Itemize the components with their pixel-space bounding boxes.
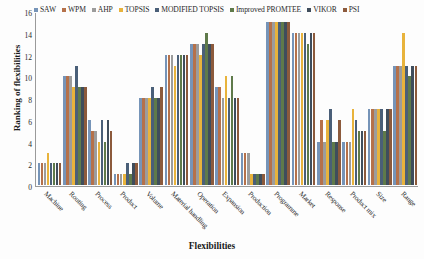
bar[interactable] [186,55,189,186]
bar-group [316,13,341,185]
bar-group [342,13,367,185]
bar-group [164,13,189,185]
x-label-cell: Machine [35,189,61,237]
bar[interactable] [84,87,87,185]
x-axis-title: Flexibilities [0,241,424,251]
y-tick-label: 4 [16,139,32,148]
bar[interactable] [135,163,138,185]
legend-swatch-icon [307,8,311,12]
bar[interactable] [415,66,418,186]
y-tick-label: 0 [16,183,32,192]
x-label-cell: Operation [188,189,214,237]
bar[interactable] [364,131,367,185]
x-label-cell: Material handling [163,189,189,237]
x-label-cell: Expansion [214,189,240,237]
x-tick-label: Process [93,190,113,210]
x-label-cell: Routing [61,189,87,237]
x-tick-label: Range [400,190,418,208]
x-tick-label: Size [374,190,388,204]
bar[interactable] [389,109,392,185]
x-label-cell: Process [86,189,112,237]
bar-group [265,13,290,185]
legend-swatch-icon [34,8,38,12]
legend-swatch-icon [155,8,159,12]
legend-swatch-icon [119,8,123,12]
bar-group [113,13,138,185]
x-label-cell: Market [290,189,316,237]
bar[interactable] [110,131,113,185]
x-label-cell: Size [367,189,393,237]
legend-swatch-icon [92,8,96,12]
bar[interactable] [160,87,163,185]
bar-group [189,13,214,185]
bar-group [215,13,240,185]
x-label-cell: Volume [137,189,163,237]
bar-group [240,13,265,185]
y-tick-label: 12 [16,52,32,61]
bar-chart: SAWWPMAHPTOPSISMODIFIED TOPSISImproved P… [0,0,424,259]
x-label-cell: Product [112,189,138,237]
y-axis-ticks: 0246810121416 [16,13,32,187]
bar[interactable] [287,22,290,185]
bar[interactable] [237,98,240,185]
bar-group [62,13,87,185]
bar[interactable] [262,174,265,185]
y-tick-label: 10 [16,74,32,83]
bar-group [392,13,417,185]
x-axis-tick-labels: MachineRoutingProcessProductVolumeMateri… [35,189,418,237]
bar-group [291,13,316,185]
plot-area [35,13,418,187]
y-tick-label: 2 [16,161,32,170]
y-tick-label: 6 [16,117,32,126]
y-tick-label: 8 [16,96,32,105]
bar-groups [37,13,418,185]
bar[interactable] [338,120,341,185]
y-tick-label: 16 [16,9,32,18]
y-tick-label: 14 [16,30,32,39]
legend-swatch-icon [230,8,234,12]
legend-swatch-icon [343,8,347,12]
bar[interactable] [211,44,214,185]
bar-group [88,13,113,185]
bar-group [138,13,163,185]
x-label-cell: Product mix [341,189,367,237]
x-label-cell: Production [239,189,265,237]
legend-swatch-icon [62,8,66,12]
x-tick-label: Market [297,190,317,210]
bar-group [37,13,62,185]
plot-wrapper: Ranking of flexibilities 0246810121416 [0,13,424,189]
bar[interactable] [313,33,316,185]
bar[interactable] [59,163,62,185]
bar-group [367,13,392,185]
x-label-cell: Programme [265,189,291,237]
x-label-cell: Response [316,189,342,237]
x-label-cell: Range [392,189,418,237]
